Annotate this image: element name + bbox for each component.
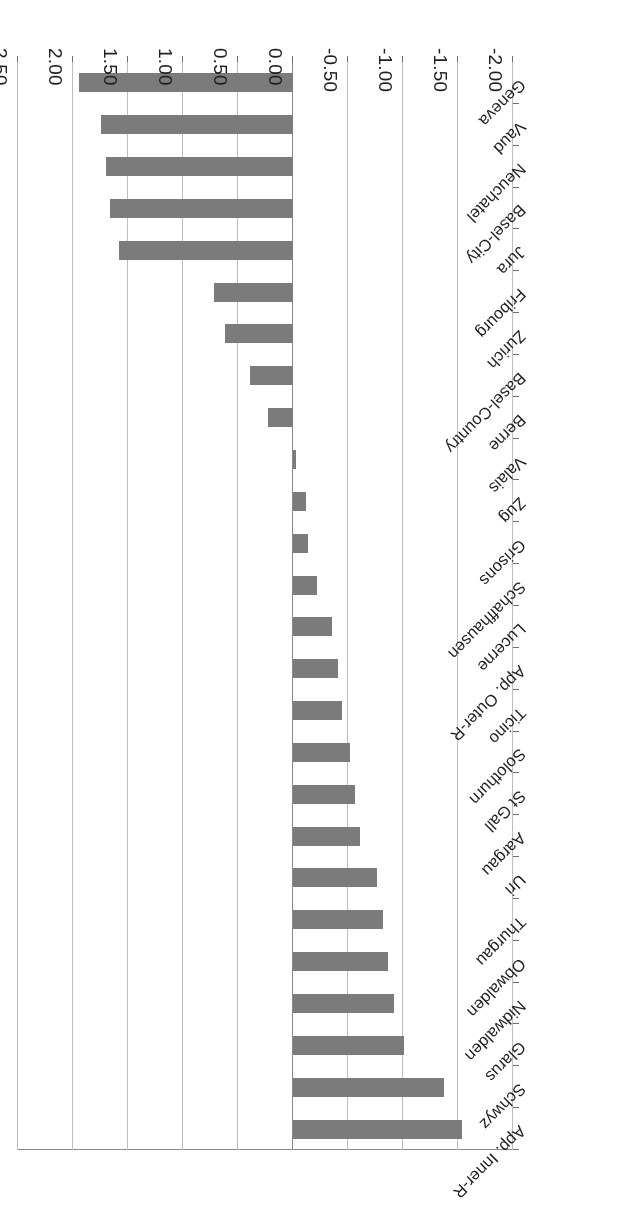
category-tick-label: Valais (517, 452, 530, 465)
bar (293, 450, 296, 469)
value-axis-tick (127, 56, 128, 62)
chart-figure: 2.502.001.501.000.500.00-0.50-1.00-1.50-… (0, 0, 631, 1212)
category-tick-label: St Gall (517, 787, 530, 800)
value-axis-tick-label: 1.50 (99, 48, 121, 86)
value-axis-tick-label: 1.00 (154, 48, 176, 86)
bar (225, 325, 293, 344)
value-axis-tick (402, 56, 403, 62)
gridline (457, 62, 458, 1150)
value-axis-tick (457, 56, 458, 62)
category-tick-label: Fribourg (517, 285, 530, 298)
category-tick-label: Grisons (517, 536, 530, 549)
bar (101, 115, 293, 134)
category-tick-label: Vaud (517, 118, 530, 131)
value-axis-tick-label: 0.00 (264, 48, 286, 86)
bar (293, 1036, 404, 1055)
bar (293, 827, 360, 846)
bar (293, 534, 308, 553)
value-axis-tick-label: -1.00 (374, 48, 396, 92)
bar (293, 1120, 462, 1139)
value-axis-tick (17, 56, 18, 62)
category-tick-label: Zurich (517, 327, 530, 340)
category-tick-label: Obwalden (517, 954, 530, 967)
bar (119, 241, 293, 260)
category-tick-label: App. Inner-R (517, 1122, 530, 1135)
bar (293, 910, 383, 929)
gridline (182, 62, 183, 1150)
category-tick-label: Neuchatel (517, 159, 530, 172)
gridline (72, 62, 73, 1150)
bar (214, 283, 293, 302)
bar (250, 366, 293, 385)
category-tick-label: Geneva (517, 76, 530, 89)
bar (110, 199, 293, 218)
bar (106, 157, 293, 176)
category-tick-label: Schwyz (517, 1080, 530, 1093)
category-tick-label: Basel-City (517, 201, 530, 214)
gridline (237, 62, 238, 1150)
bar (293, 617, 332, 636)
category-tick-label: Glarus (517, 1038, 530, 1051)
gridline (17, 62, 18, 1150)
bar (293, 659, 338, 678)
gridline (127, 62, 128, 1150)
bar (293, 743, 350, 762)
value-axis-tick (182, 56, 183, 62)
category-tick-label: App. Outer-R (517, 662, 530, 675)
category-tick-label: Zug (517, 494, 530, 507)
value-axis-tick-label: 2.00 (44, 48, 66, 86)
value-axis-tick-label: 0.50 (209, 48, 231, 86)
category-tick-label: Solothurn (517, 745, 530, 758)
value-axis-line (18, 1149, 514, 1150)
bar (293, 701, 341, 720)
category-tick-label: Basel-Country (517, 369, 530, 382)
category-tick-label: Nidwalden (517, 996, 530, 1009)
bar (293, 785, 355, 804)
value-axis-tick-label: -0.50 (319, 48, 341, 92)
bar (293, 492, 306, 511)
category-tick-label: Berne (517, 410, 530, 423)
bar (293, 869, 377, 888)
plot-area (18, 62, 514, 1150)
bar (293, 994, 394, 1013)
value-axis-tick (512, 56, 513, 62)
gridline (292, 62, 293, 1150)
value-axis-tick (347, 56, 348, 62)
category-tick-label: Thurgau (517, 913, 530, 926)
bar (293, 1078, 444, 1097)
category-tick-label: Ticino (517, 703, 530, 716)
value-axis-tick-label: 2.50 (0, 48, 11, 86)
category-tick-label: Lucerne (517, 620, 530, 633)
value-axis-tick (72, 56, 73, 62)
value-axis-tick-label: -2.00 (484, 48, 506, 92)
gridline (402, 62, 403, 1150)
value-axis-tick (292, 56, 293, 62)
category-tick-label: Jura (517, 243, 530, 256)
value-axis-tick-label: -1.50 (429, 48, 451, 92)
bar (293, 952, 388, 971)
gridline (347, 62, 348, 1150)
category-tick-label: Aargau (517, 829, 530, 842)
bar (268, 408, 293, 427)
category-tick-label: Uri (517, 871, 530, 884)
category-tick-label: Schaffhausen (517, 578, 530, 591)
value-axis-tick (237, 56, 238, 62)
bar (293, 576, 317, 595)
